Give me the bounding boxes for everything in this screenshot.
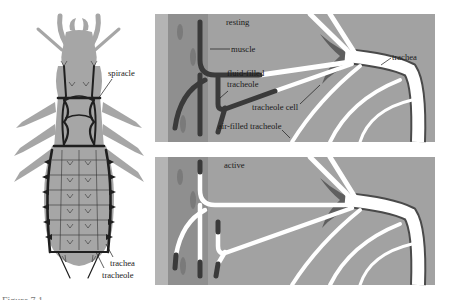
fluid-filled-label-line2: tracheole xyxy=(227,79,259,89)
insect-illustration: spiracle trachea tracheole xyxy=(14,16,144,280)
spiracle-label: spiracle xyxy=(108,68,135,78)
fluid-filled-label-line1: fluid-filled xyxy=(227,68,265,78)
tracheole-label: tracheole xyxy=(102,270,134,280)
trachea-label: trachea xyxy=(110,258,135,268)
tracheal-system-figure: spiracle trachea tracheole xyxy=(0,0,449,300)
air-filled-tracheole-label: air-filled tracheole xyxy=(218,121,282,131)
tracheole-cell-label: tracheole cell xyxy=(252,102,299,112)
active-panel: active xyxy=(155,157,435,285)
muscle-label: muscle xyxy=(231,44,256,54)
active-title: active xyxy=(224,160,245,170)
resting-panel: resting muscle fluid-filled tracheole tr… xyxy=(155,14,435,142)
resting-title: resting xyxy=(226,17,250,27)
trachea-label-resting: trachea xyxy=(392,52,417,62)
figure-caption-clipped: Figure 7.1 xyxy=(2,292,102,300)
